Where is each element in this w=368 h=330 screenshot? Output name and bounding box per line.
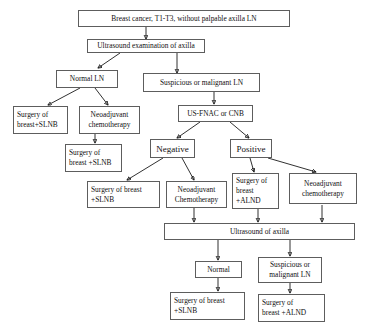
node-normal-bottom-label: Normal	[207, 265, 230, 275]
flowchart-canvas: Breast cancer, T1-T3, without palpable a…	[0, 0, 368, 330]
node-us-fnac-or-cnb-label: US-FNAC or CNB	[187, 109, 244, 119]
node-surgery-breast-slnb-left-second: Surgery of breast +SLNB	[65, 144, 122, 172]
node-ultrasound-of-axilla-label: Ultrasound of axilla	[230, 227, 289, 237]
node-surgery-breast-slnb-left: Surgery of breast+SLNB	[13, 106, 68, 134]
node-ultrasound-examination: Ultrasound examination of axilla	[87, 39, 205, 53]
node-neoadjuvant-chemotherapy-right-label: Neoadjuvant chemotherapy	[302, 179, 344, 199]
node-surgery-breast-slnb-bottom: Surgery of breast +SLNB	[170, 292, 245, 320]
node-surgery-breast-slnb-left-label: Surgery of breast+SLNB	[17, 110, 58, 130]
node-ultrasound-of-axilla: Ultrasound of axilla	[164, 223, 355, 240]
node-normal-bottom: Normal	[195, 261, 242, 278]
node-suspicious-or-malignant-ln-label: Suspicious or malignant LN	[160, 78, 243, 88]
node-surgery-breast-alnd-mid-label: Surgery of breast +ALND	[236, 176, 267, 206]
node-surgery-breast-alnd-mid: Surgery of breast +ALND	[232, 173, 279, 209]
node-negative-label: Negative	[156, 144, 188, 154]
node-positive: Positive	[230, 139, 272, 158]
node-neoadjuvant-chemotherapy-mid: Neoadjuvant Chemotherapy	[166, 181, 227, 208]
node-surgery-breast-alnd-bottom: Surgery of breast +ALND	[258, 294, 325, 322]
node-surgery-breast-slnb-mid-label: Surgery of breast +SLNB	[91, 185, 142, 205]
node-neoadjuvant-chemotherapy-left-label: Neoadjuvant chemotherapy	[89, 110, 131, 130]
node-neoadjuvant-chemotherapy-mid-label: Neoadjuvant Chemotherapy	[175, 185, 219, 205]
node-positive-label: Positive	[236, 144, 265, 154]
node-root-label: Breast cancer, T1-T3, without palpable a…	[111, 14, 256, 24]
node-neoadjuvant-chemotherapy-left: Neoadjuvant chemotherapy	[79, 106, 140, 134]
node-suspicious-malignant-bottom-label: Suspicious or malignant LN	[269, 260, 310, 280]
node-root: Breast cancer, T1-T3, without palpable a…	[78, 10, 290, 27]
node-normal-ln: Normal LN	[56, 70, 118, 88]
node-normal-ln-label: Normal LN	[70, 74, 104, 84]
node-surgery-breast-slnb-left-second-label: Surgery of breast +SLNB	[69, 148, 112, 168]
node-suspicious-malignant-bottom: Suspicious or malignant LN	[258, 257, 322, 283]
node-negative: Negative	[150, 139, 195, 158]
node-suspicious-or-malignant-ln: Suspicious or malignant LN	[143, 73, 260, 92]
node-surgery-breast-alnd-bottom-label: Surgery of breast +ALND	[262, 298, 306, 318]
node-surgery-breast-slnb-bottom-label: Surgery of breast +SLNB	[174, 296, 225, 316]
node-us-fnac-or-cnb: US-FNAC or CNB	[178, 105, 253, 122]
node-surgery-breast-slnb-mid: Surgery of breast +SLNB	[87, 181, 160, 208]
node-neoadjuvant-chemotherapy-right: Neoadjuvant chemotherapy	[289, 173, 357, 204]
node-ultrasound-examination-label: Ultrasound examination of axilla	[97, 41, 195, 51]
